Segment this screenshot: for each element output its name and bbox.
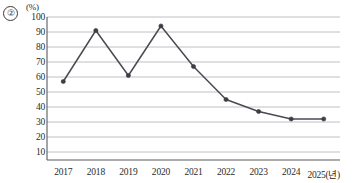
y-tick-label-80: 80	[3, 42, 45, 52]
y-tick-label-70: 70	[3, 57, 45, 67]
data-point-2023	[257, 109, 261, 113]
x-tick-label-2020: 2020	[152, 167, 170, 177]
y-tick-label-50: 50	[3, 87, 45, 97]
x-tick-label-2022: 2022	[217, 167, 235, 177]
y-tick-label-40: 40	[3, 102, 45, 112]
data-point-2025	[322, 117, 326, 121]
x-tick-label-2017: 2017	[54, 167, 72, 177]
data-point-2022	[224, 97, 228, 101]
x-tick-label-2024: 2024	[282, 167, 300, 177]
x-tick-label-2019: 2019	[119, 167, 137, 177]
y-tick-label-30: 30	[3, 117, 45, 127]
data-point-2020	[159, 24, 163, 28]
x-tick-label-2018: 2018	[87, 167, 105, 177]
y-tick-label-100: 100	[3, 12, 45, 22]
y-tick-label-60: 60	[3, 72, 45, 82]
data-point-2018	[94, 28, 98, 32]
chart-page: ② (%) 100908070605040302010 201720182019…	[0, 0, 358, 183]
x-tick-label-2021: 2021	[184, 167, 202, 177]
data-point-2021	[191, 64, 195, 68]
y-tick-label-90: 90	[3, 27, 45, 37]
x-tick-label-2023: 2023	[250, 167, 268, 177]
x-tick-label-2025: 2025(년)	[308, 167, 340, 181]
data-point-2017	[61, 79, 65, 83]
data-point-2024	[289, 117, 293, 121]
y-axis-tick-labels: 100908070605040302010	[0, 0, 45, 183]
data-series-group	[63, 26, 323, 119]
data-point-2019	[126, 73, 130, 77]
y-tick-label-20: 20	[3, 132, 45, 142]
series-line	[63, 26, 323, 119]
y-tick-label-10: 10	[3, 147, 45, 157]
line-chart-plot	[0, 0, 358, 183]
